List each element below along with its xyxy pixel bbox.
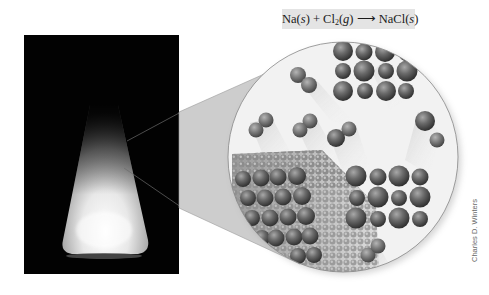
photo-credit: Charles D. Winters (470, 199, 479, 262)
reaction-illustration (0, 0, 489, 295)
magnified-view (228, 41, 458, 290)
flask-photo (24, 35, 181, 274)
